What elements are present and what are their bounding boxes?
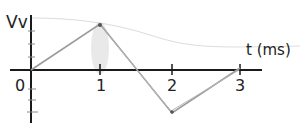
triangle-wave-plot: Vv t (ms) 0 1 2 3 [0,0,300,138]
y-axis-label: Vv [6,12,28,32]
x-tick-label-0: 0 [15,76,25,95]
x-tick-label-2: 2 [167,76,177,95]
y-axis-ticks [27,31,38,112]
peak-mark [98,23,102,27]
x-axis-label: t (ms) [246,41,291,59]
x-tick-label-3: 3 [235,76,245,95]
x-tick-label-1: 1 [96,76,106,95]
trough-mark [170,110,174,114]
triangle-waveform-double-stroke [100,25,239,111]
